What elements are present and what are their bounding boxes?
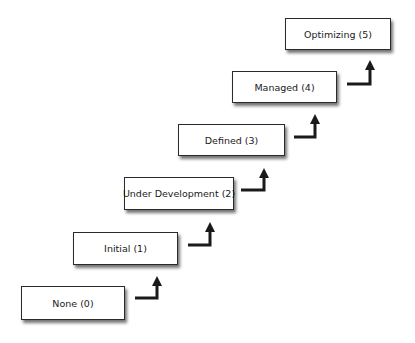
arrowhead-icon (259, 168, 269, 178)
step-up-arrow-icon (347, 68, 370, 84)
step-up-arrow-icon (294, 122, 315, 137)
step-arrows (0, 0, 415, 343)
step-up-arrow-icon (188, 230, 210, 245)
arrowhead-icon (310, 114, 320, 124)
arrowhead-icon (152, 276, 162, 286)
step-up-arrow-icon (241, 176, 264, 190)
arrowhead-icon (205, 222, 215, 232)
arrowhead-icon (365, 60, 375, 70)
step-up-arrow-icon (135, 284, 157, 298)
